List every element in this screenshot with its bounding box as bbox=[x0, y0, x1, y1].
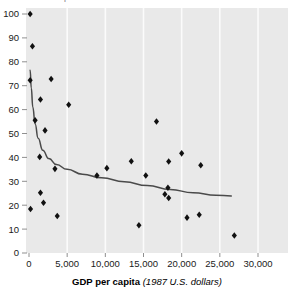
y-tick-label: 60 bbox=[8, 104, 19, 115]
y-axis-tick-group: 0102030405060708090100 bbox=[3, 8, 27, 258]
y-tick-label: 50 bbox=[8, 128, 19, 139]
x-tick-label: 20,000 bbox=[167, 258, 196, 268]
x-tick-label: 30,000 bbox=[243, 258, 272, 268]
x-axis-tick-group: 05,00010,00015,00020,00025,00030,000 bbox=[26, 253, 272, 268]
y-tick-label: 10 bbox=[8, 224, 19, 235]
y-tick-label: 70 bbox=[8, 80, 19, 91]
x-axis-label-italic: (1987 U.S. dollars) bbox=[143, 276, 222, 287]
plot-area-wrapper: 0102030405060708090100 05,00010,00015,00… bbox=[0, 0, 294, 268]
plot-background bbox=[26, 8, 288, 253]
x-tick-label: 10,000 bbox=[91, 258, 120, 268]
y-tick-label: 0 bbox=[14, 247, 19, 258]
y-tick-label: 100 bbox=[3, 8, 19, 19]
x-tick-label: 0 bbox=[26, 258, 31, 268]
y-tick-label: 30 bbox=[8, 176, 19, 187]
y-tick-label: 20 bbox=[8, 200, 19, 211]
x-tick-label: 25,000 bbox=[205, 258, 234, 268]
chart-figure: p 0102030405060708090100 05,00010,00015,… bbox=[0, 0, 294, 298]
y-tick-label: 90 bbox=[8, 32, 19, 43]
plot-background-group bbox=[26, 8, 288, 253]
x-tick-label: 15,000 bbox=[129, 258, 158, 268]
x-axis-label: GDP per capita (1987 U.S. dollars) bbox=[0, 276, 294, 287]
y-tick-label: 80 bbox=[8, 56, 19, 67]
x-axis-label-bold: GDP per capita bbox=[72, 276, 140, 287]
scatter-plot: 0102030405060708090100 05,00010,00015,00… bbox=[0, 0, 294, 268]
x-tick-label: 5,000 bbox=[55, 258, 79, 268]
y-tick-label: 40 bbox=[8, 152, 19, 163]
